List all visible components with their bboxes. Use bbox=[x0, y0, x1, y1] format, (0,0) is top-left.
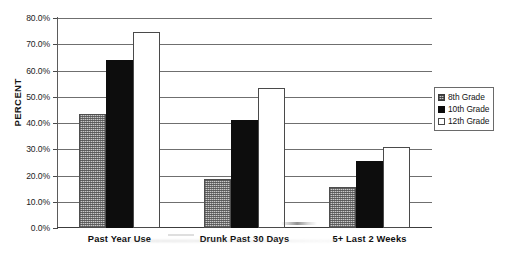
legend-swatch-icon bbox=[438, 94, 445, 101]
y-axis-tick-label: 50.0% bbox=[26, 92, 50, 102]
y-axis-tick-label: 40.0% bbox=[26, 118, 50, 128]
bars-layer bbox=[57, 18, 432, 228]
bar bbox=[231, 120, 258, 228]
bar bbox=[383, 147, 410, 228]
y-axis-tick-label: 10.0% bbox=[26, 197, 50, 207]
legend-item-label: 8th Grade bbox=[448, 92, 485, 102]
bar-chart: PERCENT 0.0%10.0%20.0%30.0%40.0%50.0%60.… bbox=[0, 0, 505, 258]
x-axis-category-label: Past Year Use bbox=[88, 234, 151, 244]
plot-area: 0.0%10.0%20.0%30.0%40.0%50.0%60.0%70.0%8… bbox=[57, 18, 432, 228]
legend-swatch-icon bbox=[438, 106, 445, 113]
bar bbox=[133, 32, 160, 228]
y-axis-tick bbox=[53, 228, 58, 229]
y-axis-tick-label: 30.0% bbox=[26, 144, 50, 154]
bar bbox=[79, 114, 106, 228]
bar bbox=[106, 60, 133, 228]
y-axis-tick-label: 20.0% bbox=[26, 171, 50, 181]
legend-item: 10th Grade bbox=[438, 103, 489, 115]
legend-item-label: 12th Grade bbox=[448, 116, 489, 126]
scan-artifact-speck bbox=[168, 234, 194, 236]
bar bbox=[329, 187, 356, 228]
x-axis-category-label: 5+ Last 2 Weeks bbox=[332, 234, 406, 244]
bar bbox=[356, 161, 383, 228]
y-axis-tick-label: 80.0% bbox=[26, 13, 50, 23]
bar bbox=[204, 179, 231, 228]
x-axis-category-label: Drunk Past 30 Days bbox=[200, 234, 290, 244]
legend-item: 8th Grade bbox=[438, 91, 489, 103]
chart-legend: 8th Grade10th Grade12th Grade bbox=[434, 87, 494, 131]
bar bbox=[258, 88, 285, 228]
y-axis-tick-label: 0.0% bbox=[31, 223, 50, 233]
legend-item-label: 10th Grade bbox=[448, 104, 489, 114]
y-axis-tick-label: 70.0% bbox=[26, 39, 50, 49]
legend-item: 12th Grade bbox=[438, 115, 489, 127]
y-axis-tick-label: 60.0% bbox=[26, 66, 50, 76]
y-axis-title: PERCENT bbox=[12, 58, 23, 148]
legend-swatch-icon bbox=[438, 118, 445, 125]
